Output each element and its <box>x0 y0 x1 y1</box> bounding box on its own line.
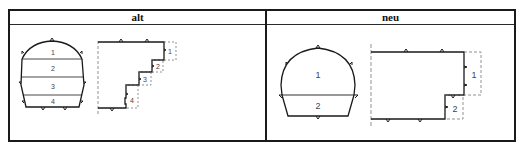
svg-text:2: 2 <box>452 104 457 114</box>
svg-text:3: 3 <box>51 83 55 90</box>
svg-text:1: 1 <box>168 48 172 55</box>
svg-text:2: 2 <box>315 101 320 111</box>
svg-text:1: 1 <box>315 70 320 80</box>
neu-cross-labels: 1 2 <box>315 70 320 111</box>
svg-text:4: 4 <box>130 97 134 104</box>
neu-longitudinal-section <box>371 44 481 128</box>
svg-text:1: 1 <box>51 49 55 56</box>
svg-text:4: 4 <box>51 98 55 105</box>
svg-text:1: 1 <box>471 70 476 80</box>
diagram-canvas: 1 2 3 4 1 2 3 4 <box>0 0 523 151</box>
svg-text:3: 3 <box>143 76 147 83</box>
svg-text:2: 2 <box>156 63 160 70</box>
svg-text:2: 2 <box>51 65 55 72</box>
alt-longitudinal-section <box>98 39 176 114</box>
